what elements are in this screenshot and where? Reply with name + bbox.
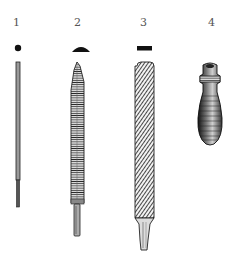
file-handle bbox=[198, 63, 222, 145]
half-round-cross-section-icon bbox=[72, 47, 90, 52]
half-round-file bbox=[71, 47, 90, 236]
circle-cross-section-icon bbox=[15, 45, 21, 51]
files-illustration bbox=[0, 0, 233, 262]
flat-file bbox=[135, 46, 154, 250]
round-file bbox=[15, 45, 21, 207]
rectangle-cross-section-icon bbox=[137, 46, 152, 51]
